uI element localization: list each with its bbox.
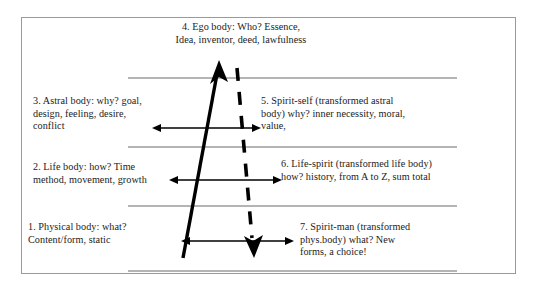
figure-canvas: 4. Ego body: Who? Essence, Idea, invento… [0, 0, 535, 293]
descending-arrow-head [244, 235, 263, 258]
descending-arrow-shaft [237, 68, 252, 238]
text-block-astral-body: 3. Astral body: why? goal, design, feeli… [33, 95, 208, 133]
ascending-arrow-head [210, 60, 228, 84]
text-block-life-body: 2. Life body: how? Time method, movement… [33, 161, 213, 186]
text-block-life-spirit: 6. Life-spirit (transformed life body) h… [281, 158, 496, 183]
text-block-spirit-man: 7. Spirit-man (transformed phys.body) wh… [300, 221, 480, 259]
text-block-ego-body: 4. Ego body: Who? Essence, Idea, invento… [121, 21, 361, 46]
descending-dashed-arrow [237, 68, 263, 258]
text-block-physical-body: 1. Physical body: what? Content/form, st… [28, 221, 203, 246]
text-block-spirit-self: 5. Spirit-self (transformed astral body)… [261, 95, 461, 133]
